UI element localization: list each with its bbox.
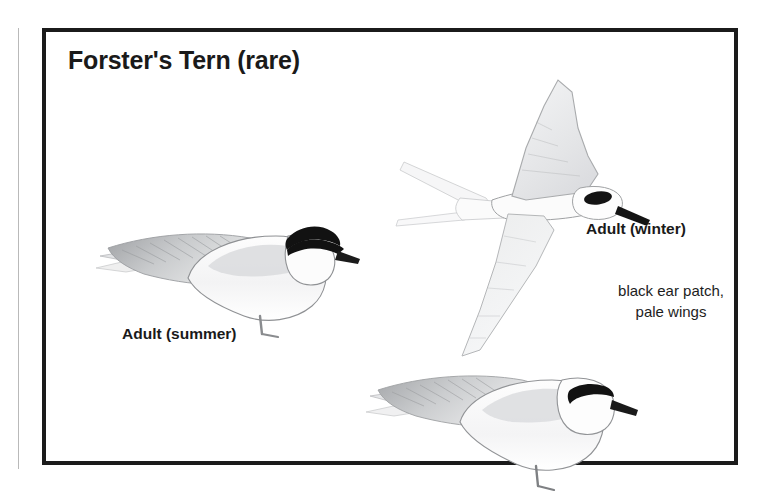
- plate-content: Forster's Tern (rare): [46, 32, 734, 461]
- plate-frame: Forster's Tern (rare): [42, 28, 738, 465]
- caption-adult-summer: Adult (summer): [122, 325, 237, 343]
- caption-adult-winter: Adult (winter): [586, 220, 686, 238]
- page-edge-line: [18, 28, 19, 469]
- field-marks-note: black ear patch, pale wings: [576, 280, 766, 322]
- field-mark-line-2: pale wings: [576, 301, 766, 322]
- field-mark-line-1: black ear patch,: [576, 280, 766, 301]
- page-title: Forster's Tern (rare): [68, 46, 300, 75]
- adult-winter-perched-illustration: [364, 342, 634, 495]
- adult-summer-perched-illustration: [92, 182, 342, 342]
